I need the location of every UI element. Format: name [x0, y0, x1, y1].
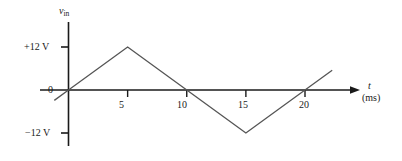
y-axis-label-subscript: in — [63, 9, 69, 18]
x-tick-label-10: 10 — [177, 100, 187, 110]
y-tick-label-plus12: +12 V — [24, 42, 49, 52]
x-axis-label: t — [368, 81, 371, 91]
x-tick-label-5: 5 — [119, 100, 124, 110]
x-tick-label-15: 15 — [238, 100, 248, 110]
x-axis — [40, 86, 360, 94]
waveform-plot — [0, 0, 402, 161]
waveform-figure: vin +12 V 0 −12 V 5 10 15 20 t (ms) — [0, 0, 402, 161]
y-axis-label: vin — [59, 6, 69, 16]
x-axis-unit-label: (ms) — [362, 93, 380, 103]
y-tick-label-minus12: −12 V — [25, 128, 50, 138]
x-tick-marks — [128, 90, 305, 97]
y-tick-label-zero: 0 — [48, 85, 53, 95]
x-tick-label-20: 20 — [299, 100, 309, 110]
